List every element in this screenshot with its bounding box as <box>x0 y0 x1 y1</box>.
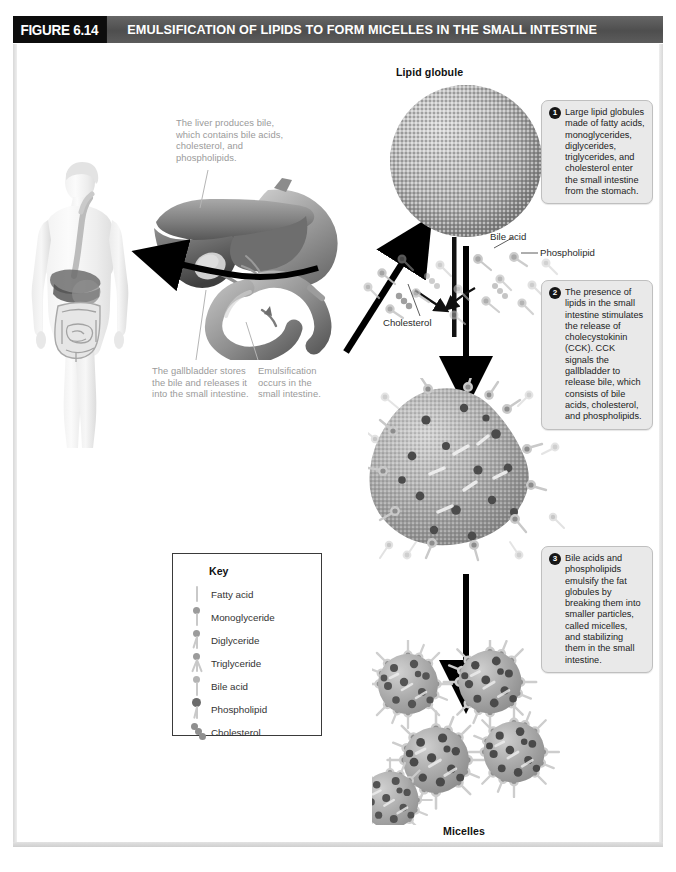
figure-page: FIGURE 6.14 EMULSIFICATION OF LIPIDS TO … <box>0 0 676 872</box>
key-row-triglyceride: Triglyceride <box>185 652 323 674</box>
callout-3-number: 3 <box>549 553 561 565</box>
callout-2-number: 2 <box>549 287 561 299</box>
key-legend-box: Key Fatty acid Monoglyceride Diglyceride <box>172 553 322 736</box>
cholesterol-label: Cholesterol <box>383 317 432 329</box>
key-title: Key <box>209 565 228 577</box>
callout-2-text: The presence of lipids in the small inte… <box>565 287 645 423</box>
key-label-phospholipid: Phospholipid <box>211 704 267 715</box>
key-row-monoglyceride: Monoglyceride <box>185 606 323 628</box>
callout-3-text: Bile acids and phospholipids emulsify th… <box>565 553 645 666</box>
gallbladder-note-label: The gallbladder stores the bile and rele… <box>152 365 252 400</box>
phospholipid-icon <box>185 698 211 720</box>
emulsification-note-label: Emulsification occurs in the small intes… <box>258 365 330 400</box>
key-row-diglyceride: Diglyceride <box>185 629 323 651</box>
key-row-bile-acid: Bile acid <box>185 675 323 697</box>
key-label-triglyceride: Triglyceride <box>211 658 261 669</box>
key-label-monoglyceride: Monoglyceride <box>211 612 275 623</box>
frame-left-edge <box>13 44 17 846</box>
callout-1: 1 Large lipid globules made of fatty aci… <box>541 100 653 204</box>
callout-1-number: 1 <box>549 107 561 119</box>
fatty-acid-icon <box>185 583 211 605</box>
callout-3: 3 Bile acids and phospholipids emulsify … <box>541 546 653 673</box>
liver-note-label: The liver produces bile, which contains … <box>176 117 284 163</box>
callout-1-text: Large lipid globules made of fatty acids… <box>565 107 645 197</box>
frame-bottom-edge <box>13 842 663 847</box>
human-body-illustration <box>18 160 138 450</box>
globule-texture <box>390 85 542 237</box>
figure-title: EMULSIFICATION OF LIPIDS TO FORM MICELLE… <box>114 16 597 43</box>
key-label-fatty-acid: Fatty acid <box>211 589 253 600</box>
callout-2: 2 The presence of lipids in the small in… <box>541 280 653 430</box>
figure-number: FIGURE 6.14 <box>13 16 107 43</box>
micelles-label: Micelles <box>443 825 485 837</box>
key-row-cholesterol: Cholesterol <box>185 721 323 743</box>
liver-gallbladder-illustration <box>150 170 350 360</box>
key-row-fatty-acid: Fatty acid <box>185 583 323 605</box>
frame-right-edge <box>659 44 663 846</box>
key-label-cholesterol: Cholesterol <box>211 727 261 738</box>
emulsifying-fat-globule <box>368 378 568 568</box>
triglyceride-icon <box>185 652 211 674</box>
key-label-bile-acid: Bile acid <box>211 681 248 692</box>
cholesterol-icon <box>185 721 211 743</box>
diglyceride-icon <box>185 629 211 651</box>
key-label-diglyceride: Diglyceride <box>211 635 259 646</box>
lipid-globule-sphere <box>390 85 542 237</box>
monoglyceride-icon <box>185 606 211 628</box>
phospholipid-label: Phospholipid <box>540 247 595 259</box>
lipid-globule-label: Lipid globule <box>396 66 463 78</box>
key-row-phospholipid: Phospholipid <box>185 698 323 720</box>
figure-header: FIGURE 6.14 EMULSIFICATION OF LIPIDS TO … <box>13 16 663 43</box>
bile-acid-label: Bile acid <box>490 231 526 243</box>
bile-acid-icon <box>185 675 211 697</box>
